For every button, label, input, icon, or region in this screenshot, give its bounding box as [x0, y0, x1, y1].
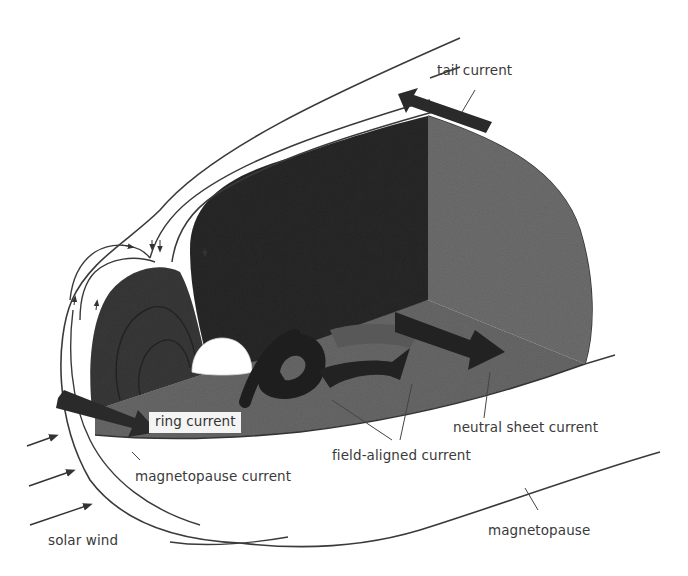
label-ring-current: ring current [149, 412, 241, 433]
magnetopause-lower-line [240, 452, 660, 547]
label-magnetopause: magnetopause [488, 524, 590, 538]
label-field-aligned-current: field-aligned current [332, 449, 471, 463]
label-magnetopause-current: magnetopause current [135, 470, 291, 484]
label-tail-current: tail current [437, 64, 512, 78]
label-solar-wind: solar wind [48, 534, 118, 548]
label-neutral-sheet-current: neutral sheet current [453, 421, 598, 435]
solar-wind-arrow-2 [29, 471, 72, 486]
magnetosphere-diagram [0, 0, 688, 576]
solar-wind-arrow-3 [30, 505, 89, 525]
solar-wind-arrow-1 [27, 436, 55, 446]
